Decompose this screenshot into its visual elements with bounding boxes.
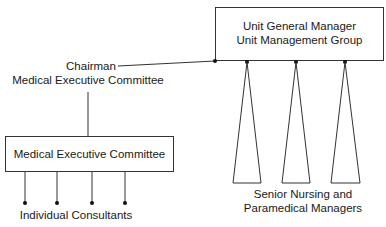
managers-line2: Paramedical Managers: [238, 201, 368, 215]
chairman-title: Chairman: [0, 59, 176, 73]
ugm-title: Unit General Manager: [215, 19, 384, 33]
managers-label: Senior Nursing and Paramedical Managers: [238, 187, 368, 215]
junction-dot: [213, 59, 217, 63]
manager-triangles: [233, 60, 360, 183]
chairman-committee: Medical Executive Committee: [0, 73, 176, 87]
chairman-label: Chairman Medical Executive Committee: [0, 59, 176, 87]
ugm-subtitle: Unit Management Group: [215, 33, 384, 47]
ugm-box-label: Unit General Manager Unit Management Gro…: [215, 19, 384, 47]
consultants-label: Individual Consultants: [12, 208, 140, 222]
managers-line1: Senior Nursing and: [238, 187, 368, 201]
mec-box-label: Medical Executive Committee: [5, 147, 174, 161]
consultant-lines: [23, 172, 127, 205]
